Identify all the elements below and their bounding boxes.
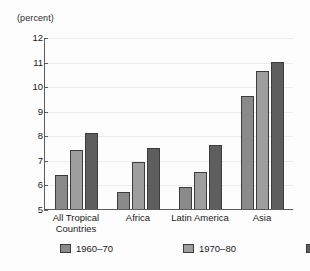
y-tick-mark bbox=[44, 210, 48, 211]
y-tick-label: 5 bbox=[13, 204, 43, 215]
legend-item[interactable]: 1980–90 bbox=[306, 243, 310, 254]
category-label: Africa bbox=[107, 212, 169, 223]
bar-group bbox=[169, 38, 231, 209]
y-tick-label: 10 bbox=[13, 81, 43, 92]
bar bbox=[70, 150, 83, 209]
axis-unit-label: (percent) bbox=[17, 13, 54, 23]
bar-group bbox=[231, 38, 293, 209]
chart-legend: 1960–701970–801980–90 bbox=[60, 243, 310, 254]
bar bbox=[147, 148, 160, 209]
bar bbox=[271, 62, 284, 209]
legend-swatch bbox=[183, 244, 194, 253]
bar bbox=[85, 133, 98, 209]
y-tick-label: 7 bbox=[13, 155, 43, 166]
legend-swatch bbox=[306, 244, 310, 253]
bar-group bbox=[45, 38, 107, 209]
y-tick-label: 8 bbox=[13, 130, 43, 141]
category-labels: All Tropical CountriesAfricaLatin Americ… bbox=[45, 212, 293, 234]
bar-groups bbox=[45, 38, 293, 209]
legend-label: 1960–70 bbox=[76, 243, 113, 254]
bar bbox=[256, 71, 269, 209]
category-label: All Tropical Countries bbox=[45, 212, 107, 234]
category-label: Asia bbox=[231, 212, 293, 223]
bar bbox=[194, 172, 207, 209]
bar bbox=[132, 162, 145, 209]
y-tick-label: 9 bbox=[13, 106, 43, 117]
bar bbox=[241, 96, 254, 209]
legend-item[interactable]: 1970–80 bbox=[183, 243, 236, 254]
legend-label: 1970–80 bbox=[199, 243, 236, 254]
legend-item[interactable]: 1960–70 bbox=[60, 243, 113, 254]
bar bbox=[179, 187, 192, 209]
plot-area: 12111098765 bbox=[44, 38, 293, 210]
x-axis-line bbox=[44, 209, 293, 210]
y-tick-label: 6 bbox=[13, 179, 43, 190]
bar bbox=[55, 175, 68, 209]
bar bbox=[117, 192, 130, 209]
legend-swatch bbox=[60, 244, 71, 253]
y-tick-label: 12 bbox=[13, 32, 43, 43]
bar-chart-figure: (percent) 12111098765 All Tropical Count… bbox=[0, 0, 310, 271]
y-tick-label: 11 bbox=[13, 57, 43, 68]
category-label: Latin America bbox=[169, 212, 231, 223]
bar bbox=[209, 145, 222, 209]
bar-group bbox=[107, 38, 169, 209]
